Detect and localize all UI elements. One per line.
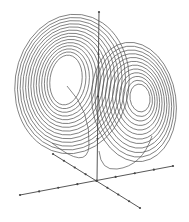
axis-tick (153, 169, 155, 171)
axis-tick (96, 138, 98, 140)
axis-tick (74, 166, 76, 168)
axis-tick (97, 95, 99, 97)
axis-tick (95, 180, 97, 182)
trajectory-lines (6, 7, 184, 169)
axis-tick (128, 200, 130, 202)
axis-tick (85, 173, 87, 175)
axis-tick (19, 194, 21, 196)
right-lobe-loop (128, 83, 152, 114)
axis-tick (52, 153, 54, 155)
axis-tick (115, 176, 117, 178)
lorenz-attractor-plot (0, 0, 189, 222)
axis-tick (98, 11, 100, 13)
axis-tick (172, 165, 174, 167)
right-lobe-loop (100, 53, 172, 147)
axis-tick (63, 160, 65, 162)
trajectory-tail (99, 136, 152, 169)
axis-tick (97, 53, 99, 55)
left-lobe-loop (37, 42, 97, 119)
left-lobe-loop (44, 49, 90, 111)
axis-tick (134, 172, 136, 174)
axis-tick (139, 207, 141, 209)
axis-tick (57, 187, 59, 189)
axis-tick (38, 190, 40, 192)
axis-tick (106, 187, 108, 189)
axis-tick (76, 183, 78, 185)
axis-tick (117, 193, 119, 195)
